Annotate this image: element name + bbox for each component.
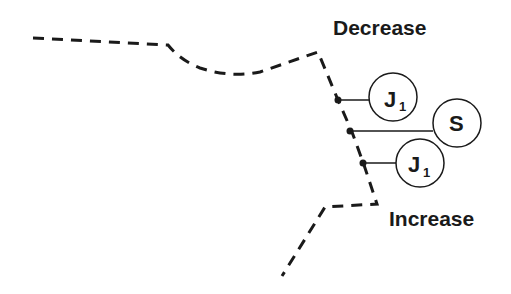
node-label: J	[408, 152, 420, 177]
node-label: J	[384, 87, 396, 112]
node-subscript: 1	[399, 99, 406, 114]
node-label: S	[449, 111, 464, 136]
diagram-canvas: J 1 S J 1	[0, 0, 511, 294]
decrease-label: Decrease	[333, 16, 426, 40]
node-subscript: 1	[423, 165, 430, 180]
node-j1-top: J 1	[335, 73, 418, 121]
dashed-boundary-line	[33, 38, 377, 276]
node-j1-bottom: J 1	[360, 139, 445, 187]
increase-label: Increase	[389, 207, 474, 231]
